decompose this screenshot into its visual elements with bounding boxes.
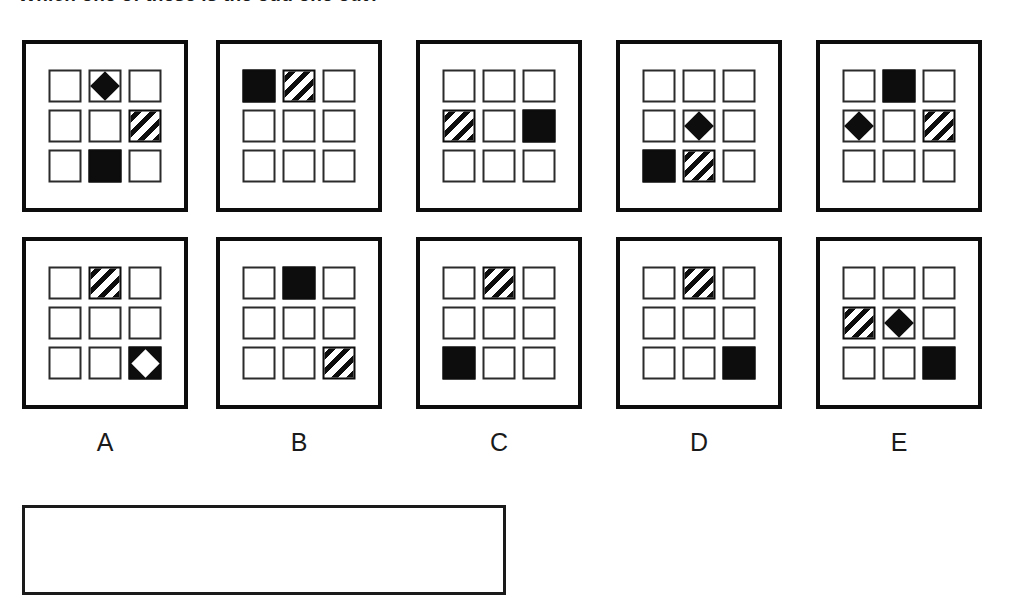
grid-cell-empty	[723, 150, 756, 183]
option-label-D[interactable]: D	[616, 428, 782, 457]
grid-cell-empty	[883, 150, 916, 183]
grid-cell-empty	[323, 267, 356, 300]
grid-cell-empty	[49, 267, 82, 300]
figure-panel-top-E[interactable]	[816, 40, 982, 212]
figure-panel-bottom-E[interactable]	[816, 237, 982, 409]
grid-cell-empty	[523, 347, 556, 380]
grid-cell-empty	[683, 307, 716, 340]
grid-cell-filled	[443, 347, 476, 380]
grid-cell-empty	[483, 70, 516, 103]
grid-cell-empty	[283, 307, 316, 340]
cell-grid	[243, 267, 356, 380]
grid-cell-empty	[923, 267, 956, 300]
grid-cell-empty	[89, 347, 122, 380]
option-label-C[interactable]: C	[416, 428, 582, 457]
grid-cell-diamond	[683, 110, 716, 143]
grid-cell-empty	[129, 150, 162, 183]
answer-box[interactable]	[22, 505, 506, 595]
grid-cell-empty	[243, 110, 276, 143]
grid-cell-empty	[283, 150, 316, 183]
grid-cell-filled	[723, 347, 756, 380]
figure-panel-bottom-C[interactable]	[416, 237, 582, 409]
grid-cell-diamond	[883, 307, 916, 340]
grid-cell-empty	[843, 267, 876, 300]
cell-grid	[443, 267, 556, 380]
grid-cell-empty	[683, 70, 716, 103]
grid-cell-empty	[643, 110, 676, 143]
grid-cell-empty	[923, 307, 956, 340]
grid-cell-empty	[483, 307, 516, 340]
grid-cell-striped	[683, 267, 716, 300]
option-label-B[interactable]: B	[216, 428, 382, 457]
grid-cell-empty	[443, 307, 476, 340]
figure-panel-top-D[interactable]	[616, 40, 782, 212]
grid-cell-empty	[843, 150, 876, 183]
grid-cell-empty	[283, 110, 316, 143]
cell-grid	[843, 70, 956, 183]
grid-cell-empty	[49, 70, 82, 103]
grid-cell-empty	[883, 347, 916, 380]
grid-cell-striped	[923, 110, 956, 143]
grid-cell-striped	[483, 267, 516, 300]
grid-cell-empty	[523, 150, 556, 183]
grid-cell-empty	[49, 347, 82, 380]
grid-cell-striped	[843, 307, 876, 340]
grid-cell-empty	[89, 110, 122, 143]
figure-panel-top-B[interactable]	[216, 40, 382, 212]
figure-panel-bottom-A[interactable]	[22, 237, 188, 409]
grid-cell-filled	[283, 267, 316, 300]
grid-cell-diamond-inverted	[129, 347, 162, 380]
grid-cell-empty	[643, 267, 676, 300]
grid-cell-filled	[243, 70, 276, 103]
grid-cell-empty	[443, 267, 476, 300]
option-label-A[interactable]: A	[22, 428, 188, 457]
figure-panel-bottom-D[interactable]	[616, 237, 782, 409]
grid-cell-striped	[283, 70, 316, 103]
grid-cell-empty	[523, 70, 556, 103]
grid-cell-filled	[923, 347, 956, 380]
grid-cell-empty	[443, 70, 476, 103]
grid-cell-empty	[523, 267, 556, 300]
grid-cell-empty	[243, 150, 276, 183]
option-label-E[interactable]: E	[816, 428, 982, 457]
grid-cell-empty	[483, 347, 516, 380]
grid-cell-empty	[923, 70, 956, 103]
grid-cell-empty	[129, 307, 162, 340]
grid-cell-filled	[523, 110, 556, 143]
grid-cell-empty	[49, 110, 82, 143]
grid-cell-filled	[883, 70, 916, 103]
grid-cell-empty	[283, 347, 316, 380]
grid-cell-empty	[723, 110, 756, 143]
panel-grid: ABCDE	[0, 0, 1011, 470]
grid-cell-empty	[49, 307, 82, 340]
grid-cell-empty	[643, 307, 676, 340]
grid-cell-empty	[843, 70, 876, 103]
grid-cell-empty	[883, 110, 916, 143]
grid-cell-empty	[443, 150, 476, 183]
grid-cell-empty	[923, 150, 956, 183]
grid-cell-empty	[643, 70, 676, 103]
figure-panel-top-C[interactable]	[416, 40, 582, 212]
grid-cell-empty	[49, 150, 82, 183]
grid-cell-empty	[643, 347, 676, 380]
cell-grid	[243, 70, 356, 183]
cell-grid	[49, 267, 162, 380]
grid-cell-empty	[723, 70, 756, 103]
figure-panel-bottom-B[interactable]	[216, 237, 382, 409]
grid-cell-striped	[323, 347, 356, 380]
figure-panel-top-A[interactable]	[22, 40, 188, 212]
grid-cell-empty	[129, 267, 162, 300]
grid-cell-empty	[89, 307, 122, 340]
cell-grid	[643, 70, 756, 183]
grid-cell-empty	[323, 110, 356, 143]
grid-cell-empty	[723, 267, 756, 300]
cell-grid	[49, 70, 162, 183]
grid-cell-empty	[243, 307, 276, 340]
grid-cell-empty	[243, 267, 276, 300]
grid-cell-filled	[89, 150, 122, 183]
grid-cell-empty	[723, 307, 756, 340]
grid-cell-empty	[843, 347, 876, 380]
grid-cell-diamond	[843, 110, 876, 143]
grid-cell-empty	[883, 267, 916, 300]
grid-cell-striped	[129, 110, 162, 143]
